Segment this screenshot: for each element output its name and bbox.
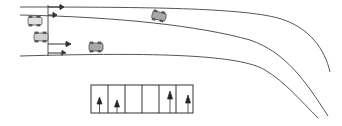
lane-indicator-panel bbox=[91, 85, 193, 113]
car-icon bbox=[89, 42, 103, 52]
car-icon bbox=[34, 32, 48, 42]
road-diagram bbox=[0, 0, 342, 126]
arrow-right-icon bbox=[48, 5, 64, 10]
car-icon bbox=[28, 16, 42, 26]
arrow-right-icon bbox=[48, 42, 71, 47]
car-icon bbox=[151, 10, 167, 23]
arrow-right-icon bbox=[48, 13, 57, 18]
